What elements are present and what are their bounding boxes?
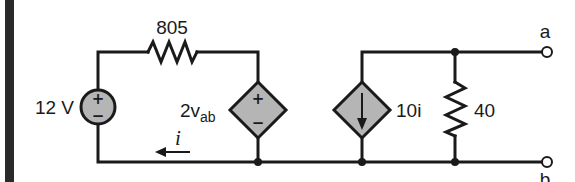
- plus-sign: +: [252, 90, 265, 108]
- current-label: i: [175, 126, 181, 150]
- resistor-40-label: 40: [474, 100, 495, 121]
- resistor-805: 805: [148, 17, 197, 62]
- dependent-current-source: 10i: [334, 82, 421, 138]
- voltage-source-label: 12 V: [35, 97, 74, 118]
- terminal-a: a: [540, 21, 552, 57]
- resistor-40: 40: [446, 82, 495, 136]
- resistor-805-label: 805: [156, 17, 188, 38]
- plus-sign: +: [92, 90, 105, 108]
- voltage-source-12v: + − 12 V: [35, 90, 115, 125]
- minus-sign: −: [252, 114, 265, 132]
- arrow-left-icon: [155, 147, 166, 157]
- circuit-diagram: 805 + − 12 V + − 2vab 10i 40 i: [0, 0, 575, 182]
- dependent-current-label: 10i: [396, 100, 421, 121]
- dependent-voltage-source: + − 2vab: [180, 82, 286, 138]
- terminal-b-label: b: [540, 169, 551, 182]
- dependent-voltage-label: 2vab: [180, 100, 216, 125]
- terminal-b: b: [540, 157, 552, 182]
- current-arrow-i: i: [155, 126, 190, 157]
- minus-sign: −: [92, 107, 105, 125]
- terminal-a-label: a: [540, 21, 551, 42]
- margin-bar: [5, 0, 14, 182]
